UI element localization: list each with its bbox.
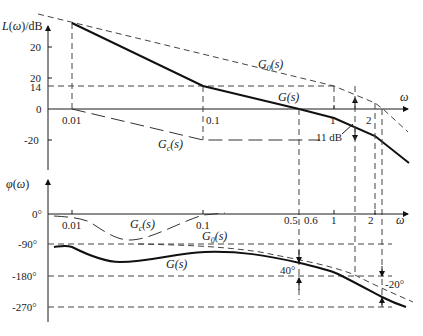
bode-diagram: L(ω)/dB ω 20 20 14 0 -20 0.01 0.1 1 2 G0… [0, 0, 423, 336]
y-tick-minus-20: -20 [24, 134, 39, 146]
phase-tick-minus-90: -90° [18, 238, 37, 250]
g-magnitude-curve [72, 23, 409, 163]
phase-y-axis-label: φ(ω) [6, 177, 29, 191]
x-tick-0.1: 0.1 [206, 114, 220, 126]
phase-x-tick-0.01: 0.01 [62, 219, 81, 231]
x-tick-2: 2 [366, 114, 372, 126]
g-phase-label: G(s) [166, 257, 187, 271]
gc-phase-label: Gc(s) [130, 217, 155, 233]
y-tick-14: 14 [30, 81, 42, 93]
x-tick-1: 1 [330, 114, 336, 126]
g0-magnitude-label: G0(s) [258, 57, 283, 73]
phase-x-tick-1: 1 [331, 214, 337, 226]
minus-20deg-annotation: -20° [385, 278, 404, 290]
g0-phase-curve [138, 244, 413, 302]
40deg-annotation: 40° [280, 264, 295, 276]
phase-x-axis-label: ω [396, 213, 404, 227]
magnitude-x-axis-label: ω [400, 90, 408, 104]
g-magnitude-label: G(s) [278, 90, 299, 104]
magnitude-y-axis-label: L(ω)/dB [1, 19, 43, 33]
g0-phase-label: G0(s) [202, 229, 227, 245]
phase-tick-0: 0° [32, 208, 42, 220]
x-tick-0.01: 0.01 [62, 114, 81, 126]
phase-x-tick-0.6: 0.6 [304, 214, 318, 226]
y-tick-20-upper: 20 [30, 41, 42, 53]
gc-magnitude-label: Gc(s) [158, 137, 183, 153]
phase-x-tick-2: 2 [368, 214, 374, 226]
phase-tick-minus-270: -270° [12, 301, 37, 313]
11db-annotation: 11 dB [316, 131, 342, 143]
phase-tick-minus-180: -180° [12, 270, 37, 282]
phase-x-tick-0.5: 0.5 [284, 214, 298, 226]
magnitude-plot: L(ω)/dB ω 20 20 14 0 -20 0.01 0.1 1 2 G0… [1, 14, 409, 170]
phase-plot: φ(ω) ω 0° -90° -180° -270° 0.01 0.1 0.5 … [6, 177, 413, 322]
y-tick-0: 0 [36, 103, 42, 115]
gc-magnitude-curve [72, 109, 320, 140]
